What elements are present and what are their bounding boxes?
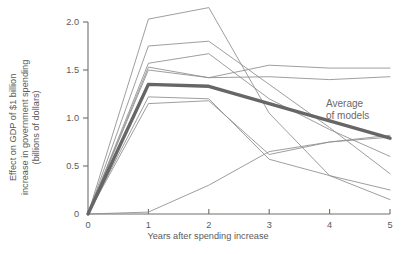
x-axis-label: Years after spending increase	[0, 231, 416, 241]
annotation-line-1: Average	[326, 98, 369, 110]
chart-figure: Effect on GDP of $1 billion increase in …	[0, 0, 416, 254]
annotation-line-2: of models	[326, 110, 369, 122]
y-tick-label: 2.0	[66, 17, 79, 27]
x-tick-label: 2	[206, 220, 211, 230]
annotation-average-of-models: Average of models	[326, 98, 369, 123]
series-model-5	[88, 70, 390, 214]
x-tick-label: 3	[267, 220, 272, 230]
series-model-8	[88, 135, 390, 214]
y-tick-label: 0.5	[66, 161, 79, 171]
y-tick-label: 1.5	[66, 65, 79, 75]
series-model-3	[88, 54, 390, 214]
x-tick-label: 1	[146, 220, 151, 230]
y-axis-label: Effect on GDP of $1 billion increase in …	[4, 0, 48, 254]
plot-area: 00.51.01.52.0012345	[0, 0, 416, 254]
y-axis-label-line-3: (billions of dollars)	[32, 59, 44, 194]
y-tick-label: 0	[74, 209, 79, 219]
x-tick-label: 0	[85, 220, 90, 230]
y-axis-label-line-1: Effect on GDP of $1 billion	[9, 59, 21, 194]
x-tick-label: 4	[327, 220, 332, 230]
y-axis-label-line-2: increase in government spending	[20, 59, 32, 194]
x-tick-label: 5	[387, 220, 392, 230]
y-tick-label: 1.0	[66, 113, 79, 123]
